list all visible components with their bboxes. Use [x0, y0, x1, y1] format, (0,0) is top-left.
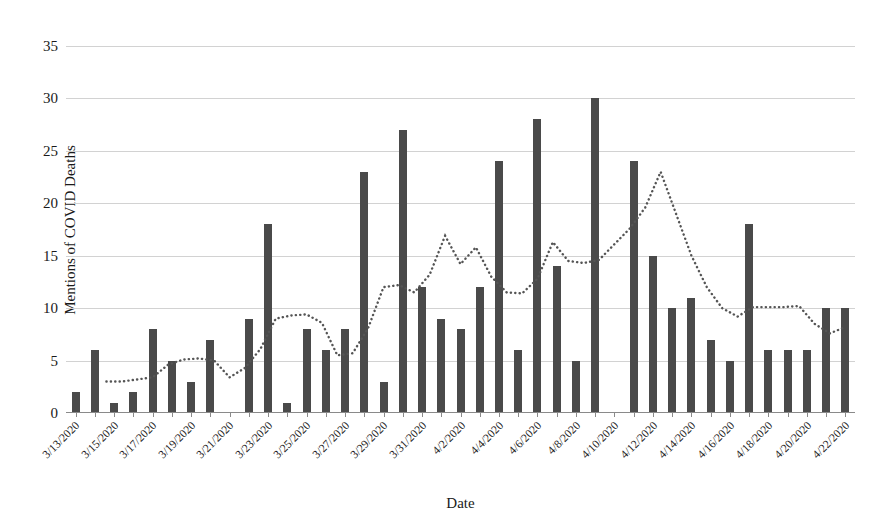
x-axis-tick-label: 3/17/2020 — [117, 419, 158, 460]
y-axis-tick-label: 10 — [43, 300, 58, 317]
x-axis-tick-label: 4/12/2020 — [618, 419, 659, 460]
y-axis-tick-label: 20 — [43, 195, 58, 212]
x-axis-tick-label: 4/4/2020 — [468, 419, 505, 456]
chart-container: Mentions of COVID Deaths 05101520253035 … — [0, 0, 885, 529]
x-axis-tick-label: 4/22/2020 — [810, 419, 851, 460]
x-axis-tick-label: 3/25/2020 — [271, 419, 312, 460]
x-axis-tick-label: 4/8/2020 — [545, 419, 582, 456]
x-axis-tick-label: 3/19/2020 — [156, 419, 197, 460]
x-axis-title: Date — [66, 495, 855, 512]
y-axis-tick-label: 15 — [43, 247, 58, 264]
trend-line — [66, 46, 855, 413]
x-axis-tick-labels: 3/13/20203/15/20203/17/20203/19/20203/21… — [66, 413, 855, 493]
trend-polyline — [106, 172, 845, 382]
y-axis-tick-label: 35 — [43, 38, 58, 55]
x-axis-tick-label: 4/18/2020 — [733, 419, 774, 460]
y-axis-tick-label: 30 — [43, 90, 58, 107]
x-axis-tick-label: 3/13/2020 — [40, 419, 81, 460]
x-axis-tick-label: 4/14/2020 — [656, 419, 697, 460]
plot-area — [66, 46, 855, 413]
x-axis-tick-label: 3/31/2020 — [387, 419, 428, 460]
x-axis-tick-label: 4/10/2020 — [579, 419, 620, 460]
x-axis-tick-label: 4/2/2020 — [430, 419, 467, 456]
y-axis-tick-label: 0 — [51, 405, 59, 422]
y-axis-tick-label: 25 — [43, 142, 58, 159]
y-axis-tick-labels: 05101520253035 — [0, 46, 58, 413]
x-axis-tick-label: 3/15/2020 — [79, 419, 120, 460]
x-axis-tick-label: 4/16/2020 — [695, 419, 736, 460]
x-axis-tick-label: 3/27/2020 — [310, 419, 351, 460]
x-axis-tick-label: 4/6/2020 — [506, 419, 543, 456]
x-axis-tick-label: 3/23/2020 — [233, 419, 274, 460]
x-axis-tick-label: 3/21/2020 — [194, 419, 235, 460]
x-axis-tick-label: 3/29/2020 — [348, 419, 389, 460]
y-axis-tick-label: 5 — [51, 352, 59, 369]
x-axis-tick-label: 4/20/2020 — [772, 419, 813, 460]
